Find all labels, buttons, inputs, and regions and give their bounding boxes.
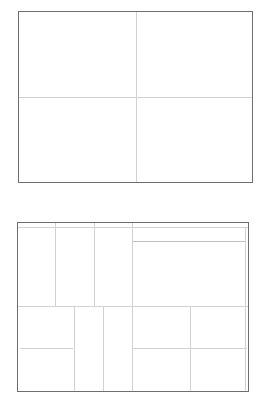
vertical-divider-line [132,223,133,391]
vertical-divider-line [245,227,246,391]
partitioned-layout-grid [17,222,249,392]
horizontal-divider-line [19,97,252,98]
horizontal-divider-line [20,348,73,349]
horizontal-divider-line [132,348,247,349]
horizontal-divider-line [18,227,248,228]
vertical-divider-line [55,223,56,307]
vertical-divider-line [74,306,75,391]
horizontal-divider-line [133,241,245,242]
vertical-divider-line [94,223,95,307]
horizontal-divider-line [18,306,248,307]
diagram-canvas [0,0,262,410]
vertical-divider-line [103,306,104,391]
